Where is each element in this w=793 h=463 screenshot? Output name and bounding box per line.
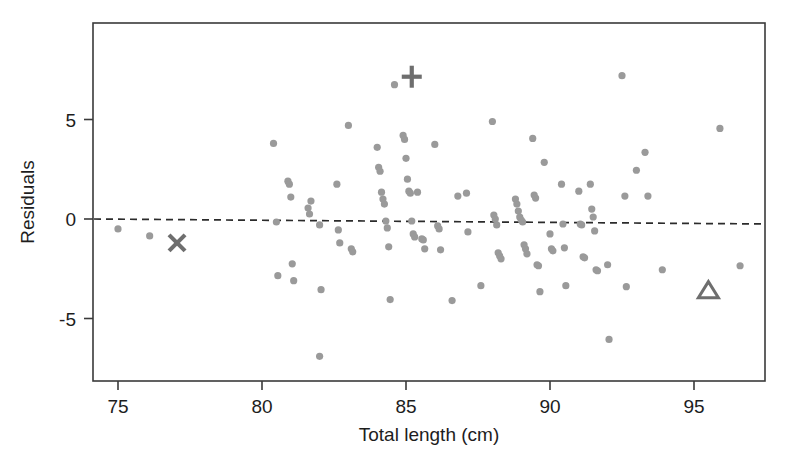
y-tick-label: -5 [59, 309, 76, 330]
data-point [401, 136, 408, 143]
data-point [536, 288, 543, 295]
data-point [535, 262, 542, 269]
data-point [407, 190, 414, 197]
triangle-marker [698, 282, 718, 298]
data-point [558, 181, 565, 188]
plot-canvas: 758085909550-5 Total length (cm) Residua… [0, 0, 793, 463]
axis-ticks [84, 120, 694, 391]
data-point [317, 286, 324, 293]
data-point [463, 190, 470, 197]
data-point [114, 225, 121, 232]
data-point [581, 254, 588, 261]
data-point [523, 250, 530, 257]
data-point [421, 245, 428, 252]
data-point [436, 225, 443, 232]
data-point [385, 243, 392, 250]
data-point [587, 181, 594, 188]
data-point [387, 296, 394, 303]
y-tick-label: 5 [65, 110, 76, 131]
data-point [391, 81, 398, 88]
data-point [273, 218, 280, 225]
data-point [591, 227, 598, 234]
data-point [408, 217, 415, 224]
data-point [532, 195, 539, 202]
data-point [286, 181, 293, 188]
data-point [384, 224, 391, 231]
data-point [477, 282, 484, 289]
x-tick-label: 90 [539, 396, 560, 417]
data-point [492, 215, 499, 222]
data-point [411, 233, 418, 240]
data-point [659, 266, 666, 273]
x-axis-title: Total length (cm) [359, 424, 499, 445]
data-point [513, 200, 520, 207]
data-point [588, 205, 595, 212]
highlighted-markers-layer [169, 66, 718, 298]
data-point [736, 262, 743, 269]
x-tick-label: 80 [251, 396, 272, 417]
data-point [546, 230, 553, 237]
data-point [414, 189, 421, 196]
data-point [644, 193, 651, 200]
data-point [378, 189, 385, 196]
data-point [376, 168, 383, 175]
data-point [515, 207, 522, 214]
data-point [437, 246, 444, 253]
data-point [604, 261, 611, 268]
data-point [623, 283, 630, 290]
data-point [489, 118, 496, 125]
data-point [316, 353, 323, 360]
data-point [336, 239, 343, 246]
data-point [345, 122, 352, 129]
data-point [270, 140, 277, 147]
data-point [633, 167, 640, 174]
data-point [304, 204, 311, 211]
data-point [594, 267, 601, 274]
data-points-layer [114, 72, 743, 360]
data-point [559, 220, 566, 227]
data-point [454, 193, 461, 200]
plot-frame [93, 23, 765, 381]
data-point [448, 297, 455, 304]
data-point [374, 144, 381, 151]
data-point [493, 221, 500, 228]
data-point [420, 236, 427, 243]
data-point [529, 135, 536, 142]
data-point [464, 228, 471, 235]
x-marker [169, 235, 185, 251]
data-point [404, 176, 411, 183]
residual-scatter-figure: 758085909550-5 Total length (cm) Residua… [0, 0, 793, 463]
data-point [381, 200, 388, 207]
data-point [561, 244, 568, 251]
data-point [402, 155, 409, 162]
data-point [306, 210, 313, 217]
data-point [605, 336, 612, 343]
data-point [316, 221, 323, 228]
data-point [333, 181, 340, 188]
zero-reference-line [94, 219, 764, 224]
data-point [641, 149, 648, 156]
y-tick-label: 0 [65, 209, 76, 230]
data-point [349, 248, 356, 255]
data-point [287, 194, 294, 201]
data-point [618, 72, 625, 79]
x-tick-label: 75 [107, 396, 128, 417]
data-point [274, 272, 281, 279]
x-tick-label: 95 [683, 396, 704, 417]
data-point [519, 218, 526, 225]
data-point [541, 159, 548, 166]
data-point [575, 188, 582, 195]
x-tick-label: 85 [395, 396, 416, 417]
data-point [431, 141, 438, 148]
data-point [307, 197, 314, 204]
plus-marker [402, 66, 422, 88]
y-axis-title: Residuals [17, 160, 38, 243]
data-point [549, 247, 556, 254]
data-point [290, 277, 297, 284]
data-point [289, 260, 296, 267]
data-point [562, 282, 569, 289]
data-point [621, 193, 628, 200]
data-point [146, 232, 153, 239]
data-point [497, 255, 504, 262]
data-point [335, 226, 342, 233]
